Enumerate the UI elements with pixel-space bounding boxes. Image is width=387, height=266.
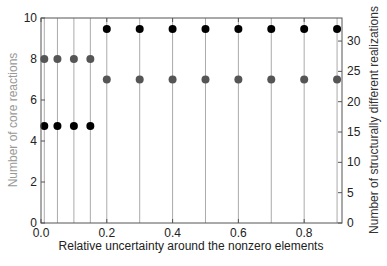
x-axis-title: Relative uncertainty around the nonzero …: [59, 239, 324, 253]
core-reactions-marker: [234, 76, 242, 84]
left-y-axis-title: Number of core reactions: [6, 53, 20, 188]
realizations-marker: [86, 122, 94, 130]
right-y-tick-label: 30: [347, 34, 361, 48]
realizations-marker: [169, 25, 177, 33]
x-tick-label: 0.2: [98, 226, 115, 240]
left-y-axis-ticks: 0246810: [24, 11, 45, 230]
core-reactions-marker: [136, 76, 144, 84]
core-reactions-marker: [70, 55, 78, 63]
left-y-tick-label: 8: [30, 52, 37, 66]
left-y-tick-label: 10: [24, 11, 38, 25]
right-y-axis-ticks: 051015202530: [338, 34, 361, 230]
core-reactions-marker: [86, 55, 94, 63]
realizations-marker: [300, 25, 308, 33]
core-reactions-marker: [300, 76, 308, 84]
core-reactions-marker: [169, 76, 177, 84]
right-y-axis-title: Number of structurally different realiza…: [367, 6, 381, 234]
realizations-marker: [70, 122, 78, 130]
left-y-tick-label: 0: [30, 216, 37, 230]
left-y-tick-label: 4: [30, 134, 37, 148]
right-y-tick-label: 20: [347, 95, 361, 109]
realizations-marker: [103, 25, 111, 33]
core-reactions-marker: [53, 55, 61, 63]
core-reactions-marker: [201, 76, 209, 84]
realizations-marker: [53, 122, 61, 130]
right-y-tick-label: 15: [347, 125, 361, 139]
dual-axis-stem-chart: 0.00.20.40.60.8 0246810 051015202530 Rel…: [0, 0, 387, 266]
right-y-tick-label: 25: [347, 64, 361, 78]
stem-lines: [44, 18, 337, 223]
core-reactions-marker: [333, 76, 341, 84]
realizations-marker: [201, 25, 209, 33]
realizations-marker: [267, 25, 275, 33]
core-reactions-marker: [267, 76, 275, 84]
x-tick-label: 0.8: [296, 226, 313, 240]
left-y-tick-label: 6: [30, 93, 37, 107]
right-y-tick-label: 5: [347, 186, 354, 200]
data-markers: [40, 25, 341, 130]
core-reactions-marker: [103, 76, 111, 84]
x-tick-label: 0.6: [230, 226, 247, 240]
realizations-marker: [333, 25, 341, 33]
x-tick-label: 0.4: [164, 226, 181, 240]
right-y-tick-label: 0: [347, 216, 354, 230]
right-y-tick-label: 10: [347, 155, 361, 169]
left-y-tick-label: 2: [30, 175, 37, 189]
realizations-marker: [136, 25, 144, 33]
realizations-marker: [234, 25, 242, 33]
plot-frame: [41, 18, 342, 223]
